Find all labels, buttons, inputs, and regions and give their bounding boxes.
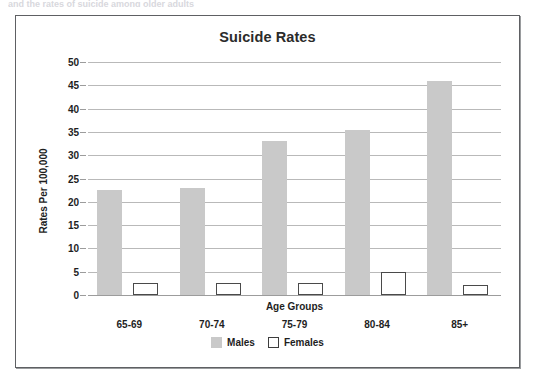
legend-item-females: Females <box>268 337 324 348</box>
y-tick-mark <box>80 155 86 156</box>
y-tick-label: 30 <box>68 150 79 161</box>
bar-males-80-84 <box>345 130 370 295</box>
y-tick-label: 0 <box>73 290 79 301</box>
x-tick-label-70-74: 70-74 <box>167 319 257 330</box>
y-tick-label: 40 <box>68 103 79 114</box>
y-tick-label: 10 <box>68 243 79 254</box>
plot-area: Age Groups 0510152025303540455065-6970-7… <box>88 62 501 295</box>
bar-males-65-69 <box>97 190 122 295</box>
x-tick-label-65-69: 65-69 <box>84 319 174 330</box>
y-tick-mark <box>80 109 86 110</box>
bar-group: 85+ <box>418 62 501 295</box>
bar-males-85+ <box>427 81 452 295</box>
bar-males-70-74 <box>180 188 205 295</box>
y-tick-mark <box>80 272 86 273</box>
bar-males-75-79 <box>262 141 287 295</box>
bar-females-70-74 <box>216 283 241 295</box>
scan-edge-artifact: and the rates of suicide among older adu… <box>8 0 308 7</box>
bar-females-75-79 <box>298 283 323 295</box>
y-tick-label: 20 <box>68 196 79 207</box>
x-axis-title: Age Groups <box>88 301 501 312</box>
legend-item-males: Males <box>211 337 255 348</box>
bar-group: 65-69 <box>88 62 171 295</box>
y-tick-label: 25 <box>68 173 79 184</box>
y-axis-title: Rates Per 100,000 <box>38 148 49 233</box>
y-tick-label: 35 <box>68 126 79 137</box>
x-tick-label-75-79: 75-79 <box>250 319 340 330</box>
y-tick-mark <box>80 295 86 296</box>
y-tick-mark <box>80 62 86 63</box>
chart-title: Suicide Rates <box>16 29 519 45</box>
legend-label-males: Males <box>227 337 255 348</box>
y-tick-mark <box>80 202 86 203</box>
x-tick-label-85+: 85+ <box>415 319 505 330</box>
bar-group: 75-79 <box>253 62 336 295</box>
chart-container: Suicide Rates Rates Per 100,000 Age Grou… <box>15 15 520 368</box>
y-tick-mark <box>80 85 86 86</box>
bar-females-85+ <box>463 285 488 295</box>
x-tick-label-80-84: 80-84 <box>332 319 422 330</box>
y-tick-label: 45 <box>68 80 79 91</box>
y-tick-mark <box>80 248 86 249</box>
y-tick-mark <box>80 225 86 226</box>
chart-legend: Males Females <box>16 337 519 348</box>
y-tick-label: 50 <box>68 57 79 68</box>
gridline <box>88 295 501 296</box>
y-tick-mark <box>80 179 86 180</box>
legend-swatch-males-icon <box>211 337 222 348</box>
bar-group: 80-84 <box>336 62 419 295</box>
y-tick-label: 15 <box>68 220 79 231</box>
bar-females-65-69 <box>133 283 158 295</box>
bar-group: 70-74 <box>171 62 254 295</box>
legend-swatch-females-icon <box>268 337 279 348</box>
legend-label-females: Females <box>284 337 324 348</box>
y-tick-label: 5 <box>73 266 79 277</box>
bar-females-80-84 <box>381 272 406 295</box>
y-tick-mark <box>80 132 86 133</box>
